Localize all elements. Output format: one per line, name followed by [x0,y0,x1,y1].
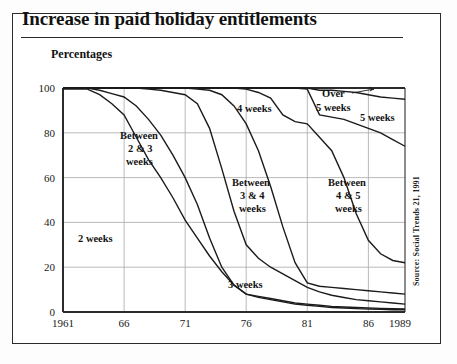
ann-between-3-4-line2: 3 & 4 [240,190,265,201]
x-tick-66: 66 [119,317,131,329]
series-line-4-weeks [63,88,405,263]
ann-between-4-5-line1: Between [328,177,366,188]
y-tick-60: 60 [44,172,56,184]
x-tick-86: 86 [363,317,375,329]
ann-2-weeks: 2 weeks [78,233,113,244]
ann-over-5-line1: Over [322,88,345,99]
page-root: Increase in paid holiday entitlements Pe… [0,0,457,364]
ann-5-weeks: 5 weeks [360,112,395,123]
x-tick-1961: 1961 [52,317,74,329]
y-tick-20: 20 [44,261,56,273]
ann-between-4-5-line2: 4 & 5 [336,190,361,201]
x-tick-81: 81 [302,317,313,329]
y-axis-tick-labels: 100 80 60 40 20 0 [39,82,56,318]
ann-between-2-3-line1: Between [120,130,158,141]
x-tick-1989: 1989 [389,317,412,329]
x-tick-76: 76 [241,317,253,329]
y-tick-80: 80 [44,127,56,139]
ann-between-3-4-line3: weeks [239,203,266,214]
x-axis-tick-labels: 1961 66 71 76 81 86 1989 [52,317,412,329]
y-tick-40: 40 [44,216,56,228]
x-tick-71: 71 [180,317,191,329]
ann-3-weeks: 3 weeks [228,279,263,290]
ann-between-4-5-line3: weeks [335,203,362,214]
series-line-between-4-5-weeks [63,88,405,146]
ann-over-5-line2: 5 weeks [316,102,351,113]
ann-4-weeks: 4 weeks [237,103,272,114]
chart-plot-area: 100 80 60 40 20 0 1961 66 71 76 81 86 19… [0,0,457,364]
ann-between-2-3-line2: 2 & 3 [128,143,153,154]
chart-svg: 100 80 60 40 20 0 1961 66 71 76 81 86 19… [0,0,457,364]
y-tick-100: 100 [39,82,56,94]
ann-between-2-3-line3: weeks [126,156,153,167]
ann-between-3-4-line1: Between [232,177,270,188]
